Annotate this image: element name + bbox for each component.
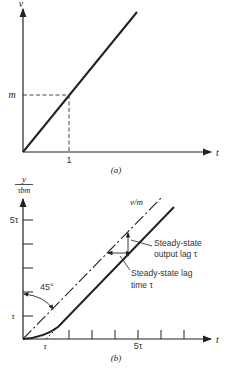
caption-a: (a): [111, 165, 122, 175]
x-ticks-b: [69, 330, 184, 339]
m-marker-label: m: [8, 89, 15, 100]
v-over-m-label: v/m: [130, 197, 143, 207]
y-tick-label-tau: τ: [11, 311, 15, 321]
y-axis-label-a: v: [19, 0, 24, 9]
x-tick-label-5tau: 5τ: [134, 341, 143, 351]
x-axis-label-b: t: [216, 334, 219, 345]
angle-label-45: 45°: [40, 282, 54, 292]
caption-b: (b): [111, 353, 122, 363]
angle-arc-45: [24, 294, 53, 309]
x-axis-label-a: t: [216, 147, 219, 158]
output-lag-label-line2: output lag τ: [154, 249, 198, 259]
lag-time-label-line2: time τ: [131, 280, 153, 290]
y-axis-label-b-numerator: y: [21, 174, 26, 184]
panel-a: v t m 1 (a): [8, 0, 219, 175]
t1-marker-label: 1: [66, 155, 71, 165]
y-ticks-b: [23, 220, 33, 316]
ramp-response-diagram: v t m 1 (a) y τbm t τ 5τ: [0, 0, 237, 369]
output-lag-label-line1: Steady-state: [154, 238, 202, 248]
ramp-line-a: [23, 12, 137, 152]
panel-b: y τbm t τ 5τ τ 5τ (b) v/m: [10, 174, 219, 363]
lag-time-label-line1: Steady-state lag: [131, 268, 193, 278]
x-tick-label-tau: τ: [43, 341, 47, 351]
y-tick-label-5tau: 5τ: [10, 215, 19, 225]
y-axis-label-b-denominator: τbm: [18, 186, 31, 195]
